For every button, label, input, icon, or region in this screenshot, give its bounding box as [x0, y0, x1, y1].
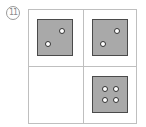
pip-icon	[102, 97, 108, 103]
pip-icon	[113, 86, 119, 92]
die-top-right	[92, 19, 128, 56]
dice-grid	[28, 9, 137, 124]
pip-icon	[102, 86, 108, 92]
die-top-left	[37, 19, 73, 56]
pip-icon	[113, 97, 119, 103]
die-bottom-right	[92, 76, 128, 113]
pip-icon	[59, 28, 65, 34]
pip-icon	[45, 41, 51, 47]
pip-icon	[100, 41, 106, 47]
empty-cell-bottom-left	[29, 67, 83, 123]
pip-icon	[114, 28, 120, 34]
problem-number-label: 11	[6, 6, 20, 20]
